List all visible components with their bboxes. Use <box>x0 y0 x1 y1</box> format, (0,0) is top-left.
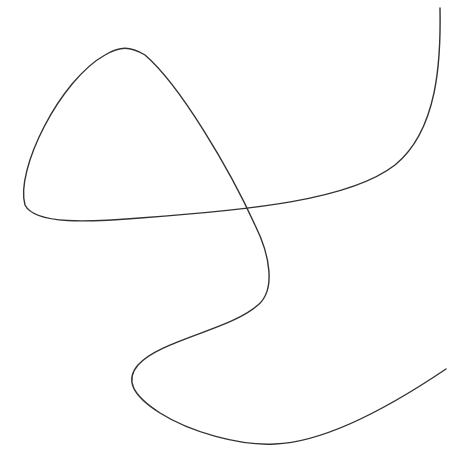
drawing-canvas <box>0 0 464 466</box>
background <box>0 0 464 466</box>
